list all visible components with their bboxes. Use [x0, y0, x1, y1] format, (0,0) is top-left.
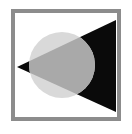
abstract-shape-icon	[0, 0, 132, 134]
icon-canvas	[0, 0, 132, 134]
